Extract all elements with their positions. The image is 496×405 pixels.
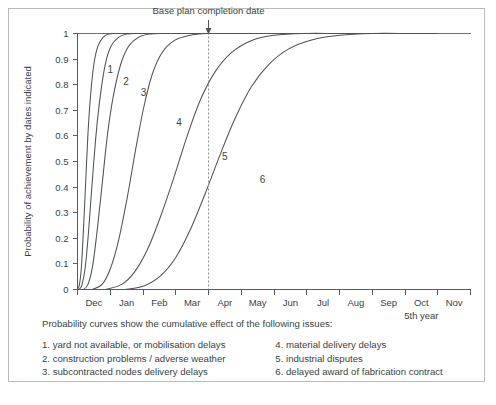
- probability-curve-5: [105, 33, 437, 289]
- curve-label-6: 6: [260, 174, 266, 185]
- x-axis-tick-label: May: [249, 297, 267, 308]
- x-axis-tick-label: Aug: [347, 297, 364, 308]
- x-axis-tick-label: Nov: [446, 297, 463, 308]
- curve-label-2: 2: [123, 76, 129, 87]
- y-axis-tick-label: 0: [63, 284, 68, 295]
- legend-item: 5. industrial disputes: [275, 352, 462, 366]
- y-axis-title: Probability of achievement by dates indi…: [22, 66, 33, 257]
- legend-block: Probability curves show the cumulative e…: [35, 318, 462, 378]
- curve-label-4: 4: [176, 117, 182, 128]
- legend-column-right: 4. material delivery delays 5. industria…: [275, 338, 462, 379]
- curve-label-1: 1: [107, 64, 113, 75]
- legend-column-left: 1. yard not available, or mobilisation d…: [42, 338, 275, 379]
- y-axis-tick-label: 0.9: [55, 54, 68, 65]
- probability-curve-2: [79, 33, 438, 289]
- y-axis-tick-label: 0.8: [55, 79, 68, 90]
- legend-item: 2. construction problems / adverse weath…: [42, 352, 275, 366]
- probability-curve-4: [92, 33, 438, 289]
- figure-container: 00.10.20.30.40.50.60.70.80.91DecJanFebMa…: [0, 0, 496, 405]
- legend-item: 3. subcontracted nodes delivery delays: [42, 365, 275, 379]
- probability-curve-6: [125, 33, 438, 289]
- y-axis-tick-label: 0.6: [55, 130, 68, 141]
- curve-label-3: 3: [141, 87, 147, 98]
- base-plan-completion-date-label: Base plan completion date: [153, 5, 265, 16]
- y-axis-tick-label: 0.2: [55, 233, 68, 244]
- x-axis-tick-label: Jul: [317, 297, 329, 308]
- y-axis-tick-label: 0.3: [55, 207, 68, 218]
- y-axis-tick-label: 0.4: [55, 182, 68, 193]
- legend-item: 6. delayed award of fabrication contract: [275, 365, 462, 379]
- legend-columns: 1. yard not available, or mobilisation d…: [42, 338, 462, 379]
- x-axis-tick-label: Dec: [85, 297, 102, 308]
- x-axis-tick-label: Jun: [283, 297, 298, 308]
- legend-item: 4. material delivery delays: [275, 338, 462, 352]
- y-axis-tick-label: 0.7: [55, 105, 68, 116]
- y-axis-tick-label: 0.1: [55, 258, 68, 269]
- probability-curve-1: [78, 33, 438, 289]
- x-axis-tick-label: Sep: [380, 297, 397, 308]
- x-axis-tick-label: Feb: [151, 297, 167, 308]
- legend-item: 1. yard not available, or mobilisation d…: [42, 338, 275, 352]
- y-axis-tick-label: 1: [63, 28, 68, 39]
- x-axis-tick-label: Mar: [184, 297, 200, 308]
- x-axis-tick-label: Apr: [217, 297, 232, 308]
- probability-curve-3: [83, 33, 437, 289]
- y-axis-tick-label: 0.5: [55, 156, 68, 167]
- x-axis-tick-label: Oct: [414, 297, 429, 308]
- x-axis-tick-label: Jan: [119, 297, 134, 308]
- curve-label-5: 5: [222, 151, 228, 162]
- legend-intro: Probability curves show the cumulative e…: [42, 318, 462, 329]
